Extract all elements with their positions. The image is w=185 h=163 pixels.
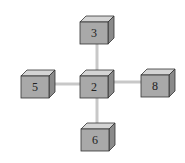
node-6: 6 [81,123,115,151]
node-5: 5 [21,70,55,98]
node-8: 8 [141,69,175,97]
cube-graph-diagram: 3 5 2 8 6 [0,0,185,163]
node-2: 2 [80,70,114,98]
node-label: 8 [152,79,158,93]
node-label: 3 [91,26,97,40]
node-3: 3 [80,16,114,44]
node-label: 5 [32,80,38,94]
node-label: 2 [91,80,97,94]
node-label: 6 [92,133,98,147]
